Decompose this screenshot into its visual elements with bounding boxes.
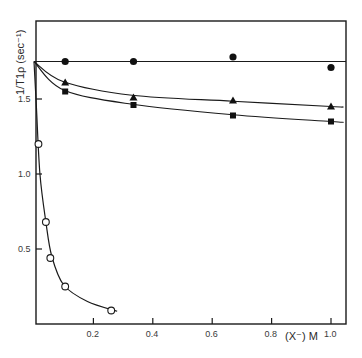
filled-circle-marker bbox=[327, 64, 334, 71]
filled-triangle-marker bbox=[229, 97, 237, 104]
x-tick-label: 0.4 bbox=[146, 329, 159, 339]
filled-square-marker bbox=[130, 102, 136, 108]
data-markers bbox=[35, 53, 335, 314]
x-tick-label: 0.2 bbox=[86, 329, 99, 339]
x-tick-label: 0.8 bbox=[265, 329, 278, 339]
plot-frame bbox=[36, 21, 346, 324]
y-tick-label: 1.0 bbox=[18, 169, 31, 179]
x-tick-label: 1.0 bbox=[324, 329, 337, 339]
fit-curve-square bbox=[34, 62, 343, 123]
filled-square-marker bbox=[230, 113, 236, 119]
plot-border bbox=[36, 21, 346, 324]
open-circle-marker bbox=[62, 283, 69, 290]
axis-ticks: 0.20.40.60.81.00.51.01.5 bbox=[18, 94, 337, 339]
open-circle-marker bbox=[35, 141, 42, 148]
filled-square-marker bbox=[328, 119, 334, 125]
chart-canvas: 0.20.40.60.81.00.51.01.5 (X⁻) M 1/T1ρ (s… bbox=[0, 0, 362, 358]
filled-circle-marker bbox=[229, 53, 236, 60]
filled-triangle-marker bbox=[61, 79, 69, 86]
fit-curves bbox=[34, 62, 346, 312]
filled-circle-marker bbox=[130, 58, 137, 65]
fit-curve-triangle bbox=[34, 62, 343, 108]
fit-curve-open-circle bbox=[34, 62, 117, 312]
y-tick-label: 0.5 bbox=[18, 244, 31, 254]
open-circle-marker bbox=[47, 255, 54, 262]
open-circle-marker bbox=[42, 219, 49, 226]
y-axis-label: 1/T1ρ (sec⁻¹) bbox=[14, 30, 26, 95]
filled-square-marker bbox=[62, 89, 68, 95]
x-tick-label: 0.6 bbox=[205, 329, 218, 339]
filled-circle-marker bbox=[62, 58, 69, 65]
x-axis-label: (X⁻) M bbox=[285, 330, 318, 342]
open-circle-marker bbox=[108, 307, 115, 314]
